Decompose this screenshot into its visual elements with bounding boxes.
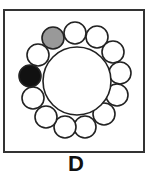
center-circle [43,47,111,115]
ring-circle [102,41,124,63]
ring-circle [109,62,131,84]
ring-circle [35,106,57,128]
option-label: D [0,152,152,176]
ring-circle [27,44,49,66]
ring-circle [19,65,41,87]
ring-circle [42,27,64,49]
ring-circle [74,116,96,138]
ring-circle [64,22,86,44]
ring-circle [22,87,44,109]
